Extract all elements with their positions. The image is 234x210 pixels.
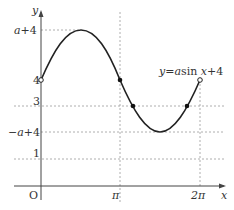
point-intersect-3-right xyxy=(185,104,190,109)
y-tick-minus-a-plus-4: −a+4 xyxy=(8,127,40,138)
x-tick-pi: π xyxy=(112,190,119,201)
guide-lines xyxy=(14,12,224,202)
x-axis-label: x xyxy=(221,190,227,201)
y-tick-three: 3 xyxy=(33,96,40,107)
origin-label: O xyxy=(29,190,38,201)
y-tick-a-plus-4: a+4 xyxy=(14,25,37,36)
graph-figure: y x O a+4 4 3 −a+4 1 π 2π y=asin x+4 xyxy=(0,0,234,210)
y-axis-label: y xyxy=(32,5,38,16)
point-intersect-3-left xyxy=(131,104,136,109)
x-tick-two-pi: 2π xyxy=(191,190,205,201)
y-tick-one: 1 xyxy=(33,148,40,159)
point-pi xyxy=(118,78,123,83)
y-tick-four: 4 xyxy=(33,75,40,86)
open-point-end xyxy=(198,78,203,83)
y-axis-arrow-icon xyxy=(39,10,44,17)
equation-label: y=asin x+4 xyxy=(159,66,223,77)
x-axis-arrow-icon xyxy=(219,184,226,189)
